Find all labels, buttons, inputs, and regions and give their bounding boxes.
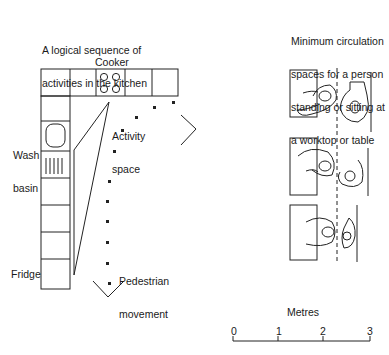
left-counter — [41, 96, 70, 289]
label-pedestrian-line1: Pedestrian — [119, 276, 169, 287]
right-title-line3: standing or sitting at — [291, 102, 385, 113]
label-wash-line1: Wash — [13, 150, 39, 161]
label-activity-space: Activity space — [112, 109, 145, 186]
scale-tick-1: 1 — [276, 326, 282, 337]
label-space-line2: space — [112, 164, 145, 175]
right-title-line1: Minimum circulation — [291, 36, 385, 47]
scale-tick-2: 2 — [320, 326, 326, 337]
right-panel-title: Minimum circulation spaces for a person … — [291, 14, 385, 157]
person-figure-standing-3 — [306, 218, 335, 246]
draining-board-icon — [46, 158, 62, 174]
scale-bar — [233, 336, 370, 341]
activity-space-triangle — [74, 102, 109, 275]
scale-tick-3: 3 — [367, 326, 373, 337]
person-figure-seated-2 — [338, 160, 363, 187]
label-activity-line1: Activity — [112, 131, 145, 142]
person-figure-seated-3 — [342, 218, 355, 248]
label-wash-basin: Wash basin — [13, 128, 39, 205]
left-title-line2: activities in the kitchen — [42, 78, 147, 89]
label-fridge: Fridge — [11, 269, 41, 280]
scale-title: Metres — [287, 307, 319, 318]
scale-tick-0: 0 — [231, 326, 237, 337]
label-cooker: Cooker — [95, 57, 129, 68]
wash-basin-icon — [46, 124, 65, 147]
label-movement-line2: movement — [119, 309, 169, 320]
left-title-line1: A logical sequence of — [42, 45, 147, 56]
right-title-line4: a worktop or table — [291, 135, 385, 146]
right-title-line2: spaces for a person — [291, 69, 385, 80]
label-basin-line2: basin — [13, 183, 39, 194]
label-pedestrian-movement: Pedestrian movement — [119, 254, 169, 331]
arrow-right-icon — [181, 115, 196, 145]
